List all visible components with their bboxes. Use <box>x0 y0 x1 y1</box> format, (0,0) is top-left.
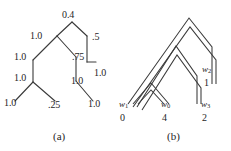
label-leaf-right: 1.0 <box>88 99 100 109</box>
label-node-right-2: 1.0 <box>94 68 106 78</box>
edge-root-right <box>72 22 87 36</box>
panel-b-chevron-edges <box>113 0 231 151</box>
inner-value-w2: 1 <box>204 78 209 88</box>
label-node-mid-1: .75 <box>72 52 84 62</box>
label-node-mid-2: 1.0 <box>71 76 83 86</box>
leaf-label-w3: w3 <box>201 100 210 110</box>
figure-root: 0.4 1.0 .5 1.0 .75 1.0 1.0 1.0 1.0 .25 1… <box>0 0 231 151</box>
label-node-left-1: 1.0 <box>30 31 42 41</box>
inner-label-w2-sub: 2 <box>208 67 211 74</box>
label-leaf-left: 1.0 <box>4 98 16 108</box>
panel-a-tree-diagram: 0.4 1.0 .5 1.0 .75 1.0 1.0 1.0 1.0 .25 1… <box>0 0 118 151</box>
edge-ll-left <box>15 82 33 101</box>
inner-label-w2: w2 <box>202 65 211 75</box>
caption-panel-b: (b) <box>167 131 180 142</box>
leaf-value-w3: 2 <box>202 113 207 123</box>
leaf-label-w0-sub: 0 <box>167 102 170 109</box>
chevron-outer-1 <box>128 18 212 104</box>
leaf-label-w1: w1 <box>119 100 128 110</box>
label-node-right-1: .5 <box>92 32 99 42</box>
leaf-value-w0: 4 <box>162 113 167 123</box>
chevron-second-1 <box>137 46 197 107</box>
leaf-label-w0: w0 <box>161 100 170 110</box>
caption-panel-a: (a) <box>53 131 65 142</box>
label-node-left-3: 1.0 <box>14 73 26 83</box>
label-node-root: 0.4 <box>62 10 74 20</box>
panel-b-tree-diagram: w1 0 w0 4 w3 2 w2 1 (b) <box>113 0 231 151</box>
label-leaf-mid: .25 <box>48 100 60 110</box>
label-node-left-2: 1.0 <box>14 52 26 62</box>
leaf-value-w1: 0 <box>120 113 125 123</box>
leaf-label-w3-sub: 3 <box>207 102 210 109</box>
leaf-label-w1-sub: 1 <box>125 102 128 109</box>
edge-root-left <box>57 22 72 36</box>
